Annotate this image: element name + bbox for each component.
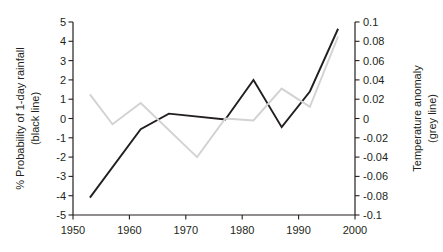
y-tick-label-right: -0.02 [363, 132, 388, 144]
y-tick-label-left: -1 [56, 132, 66, 144]
y-tick-label-left: -3 [56, 170, 66, 182]
dual-axis-line-chart: 195019601970198019902000543210-1-2-3-4-5… [0, 0, 443, 252]
y-tick-label-left: 5 [60, 16, 66, 28]
y-axis-left-title-line2: (black line) [29, 92, 41, 145]
y-tick-label-right: 0.04 [363, 74, 384, 86]
y-tick-label-right: 0.1 [363, 16, 378, 28]
y-tick-label-left: 2 [60, 74, 66, 86]
x-tick-label: 2000 [343, 224, 367, 236]
y-tick-label-left: 1 [60, 93, 66, 105]
y-tick-label-right: 0.02 [363, 93, 384, 105]
x-tick-label: 1950 [61, 224, 85, 236]
series-line-temperature-anomaly [90, 36, 338, 157]
y-tick-label-right: -0.08 [363, 190, 388, 202]
chart-container: 195019601970198019902000543210-1-2-3-4-5… [0, 0, 443, 252]
y-axis-right-title-line1: Temperature anomaly [411, 65, 423, 172]
y-tick-label-left: -5 [56, 209, 66, 221]
y-tick-label-left: -4 [56, 190, 66, 202]
y-axis-right-title-line2: (grey line) [426, 94, 438, 143]
y-tick-label-right: 0 [363, 113, 369, 125]
x-tick-label: 1960 [117, 224, 141, 236]
y-tick-label-right: -0.06 [363, 170, 388, 182]
y-tick-label-left: 0 [60, 113, 66, 125]
y-axis-left-title-line1: % Probability of 1-day rainfall [14, 47, 26, 189]
y-tick-label-right: 0.06 [363, 55, 384, 67]
x-tick-label: 1980 [230, 224, 254, 236]
y-tick-label-right: 0.08 [363, 35, 384, 47]
y-tick-label-left: -2 [56, 151, 66, 163]
y-tick-label-right: -0.04 [363, 151, 388, 163]
y-tick-label-left: 3 [60, 55, 66, 67]
x-tick-label: 1990 [286, 224, 310, 236]
y-tick-label-right: -0.1 [363, 209, 382, 221]
y-tick-label-left: 4 [60, 35, 66, 47]
x-tick-label: 1970 [174, 224, 198, 236]
